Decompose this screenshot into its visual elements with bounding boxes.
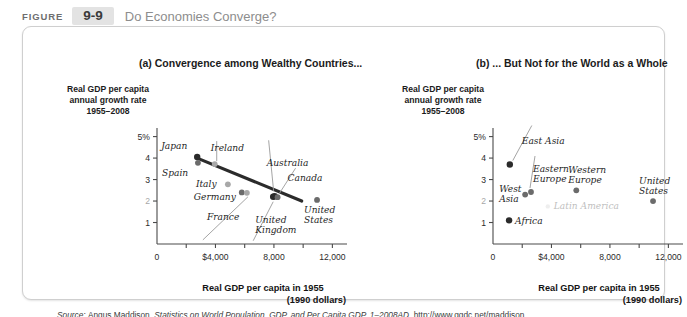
data-point-label: United	[639, 176, 670, 186]
x-tick-label: 8,000	[263, 252, 285, 262]
panel-b-x-caption-line1: Real GDP per capita in 1955	[538, 283, 659, 293]
panel-a-y-axis-caption: Real GDP per capita annual growth rate 1…	[50, 84, 166, 118]
data-point-label: East Asia	[521, 136, 565, 146]
data-point-marker	[528, 189, 534, 195]
data-point-marker	[314, 197, 320, 203]
x-tick-label: 12,000	[319, 252, 346, 262]
data-point-label: States	[304, 215, 333, 225]
data-point-label: United	[255, 215, 286, 225]
y-tick-label: 2	[481, 196, 486, 206]
source-url: , http://www.ggdc.net/maddison.	[409, 310, 527, 317]
data-point-label: Kingdom	[254, 225, 296, 235]
panel-a-title: (a) Convergence among Wealthy Countries.…	[139, 57, 362, 69]
data-point-marker	[506, 217, 512, 223]
data-point-marker	[239, 190, 245, 196]
figure-title: Do Economies Converge?	[125, 9, 277, 24]
figure-card-inner: (a) Convergence among Wealthy Countries.…	[23, 27, 664, 299]
source-work-title: Statistics on World Population, GDP, and…	[154, 310, 409, 317]
y-tick-label: 5%	[138, 132, 151, 142]
x-tick-label: 0	[491, 252, 496, 262]
data-point-marker	[275, 194, 281, 200]
x-tick-label: $4,000	[202, 252, 229, 262]
panel-b-scatter-svg: 12345%0$4,0008,00012,000East AsiaWestAsi…	[471, 122, 687, 272]
data-point-label: States	[639, 186, 668, 196]
x-tick-label: 8,000	[599, 252, 621, 262]
data-point-label: Italy	[195, 179, 218, 189]
data-point-marker	[522, 192, 528, 198]
panel-a-x-axis-caption: Real GDP per capita in 1955 (1990 dollar…	[173, 282, 353, 306]
figure-header: FIGURE 9-9 Do Economies Converge?	[22, 6, 277, 26]
x-tick-label: $4,000	[538, 252, 565, 262]
panel-b-y-axis-caption: Real GDP per capita annual growth rate 1…	[385, 84, 501, 118]
y-tick-label: 1	[481, 218, 486, 228]
figure-label: FIGURE	[22, 11, 63, 22]
data-point-marker	[244, 190, 250, 196]
data-point-label: Africa	[514, 216, 543, 226]
data-point-label: Australia	[266, 158, 309, 168]
panel-a-y-caption-line3: 1955–2008	[86, 106, 129, 116]
y-tick-label: 3	[145, 175, 150, 185]
figure-number-badge: 9-9	[72, 7, 114, 26]
y-tick-label: 1	[145, 218, 150, 228]
y-tick-label: 5%	[474, 132, 487, 142]
source-lead: Source:	[57, 310, 88, 317]
y-tick-label: 2	[145, 196, 150, 206]
data-point-label: Japan	[159, 141, 187, 151]
data-point-label: Ireland	[210, 143, 245, 153]
panel-a-scatter-svg: 12345%0$4,0008,00012,000JapanSpainIrelan…	[135, 122, 353, 272]
panel-b-x-axis-caption: Real GDP per capita in 1955 (1990 dollar…	[509, 282, 687, 306]
data-point-label: United	[304, 205, 335, 215]
data-point-marker	[195, 160, 201, 166]
panel-b-x-caption-line2: (1990 dollars)	[509, 294, 687, 306]
figure-root: FIGURE 9-9 Do Economies Converge? (a) Co…	[0, 0, 687, 317]
y-tick-label: 4	[145, 153, 150, 163]
source-author: Angus Maddison,	[88, 310, 154, 317]
data-point-label: France	[206, 212, 239, 222]
data-point-marker	[546, 204, 550, 208]
panel-a-plot: 12345%0$4,0008,00012,000JapanSpainIrelan…	[135, 122, 353, 262]
data-point-label: Europe	[532, 174, 567, 184]
data-point-label: Spain	[162, 168, 188, 178]
data-point-label: Eastern	[532, 164, 569, 174]
panel-b-y-caption-line2: annual growth rate	[405, 95, 482, 105]
panel-a-x-caption-line2: (1990 dollars)	[173, 294, 353, 306]
panel-a-y-caption-line2: annual growth rate	[70, 95, 147, 105]
data-point-marker	[225, 181, 231, 187]
data-point-label: Canada	[288, 173, 323, 183]
panel-a-x-caption-line1: Real GDP per capita in 1955	[202, 283, 323, 293]
data-point-marker	[194, 154, 200, 160]
panel-b-y-caption-line3: 1955–2008	[421, 106, 464, 116]
source-note: Source: Angus Maddison, Statistics on Wo…	[57, 310, 527, 317]
data-point-marker	[212, 161, 218, 167]
data-point-label: West	[499, 184, 522, 194]
y-tick-label: 3	[481, 175, 486, 185]
data-point-marker	[507, 161, 513, 167]
data-point-marker	[573, 187, 579, 193]
data-point-label: Germany	[194, 192, 237, 202]
data-point-label: Latin America	[553, 201, 619, 211]
y-tick-label: 4	[481, 153, 486, 163]
data-point-label: Western	[568, 165, 606, 175]
x-tick-label: 12,000	[655, 252, 682, 262]
panel-b-title: (b) ... But Not for the World as a Whole	[476, 57, 668, 69]
data-point-label: Asia	[498, 194, 519, 204]
panel-b-plot: 12345%0$4,0008,00012,000East AsiaWestAsi…	[471, 122, 687, 262]
figure-card: (a) Convergence among Wealthy Countries.…	[22, 26, 665, 300]
panel-a-y-caption-line1: Real GDP per capita	[67, 84, 149, 94]
data-point-marker	[650, 198, 656, 204]
x-tick-label: 0	[155, 252, 160, 262]
panel-b-y-caption-line1: Real GDP per capita	[402, 84, 484, 94]
data-point-label: Europe	[567, 175, 602, 185]
